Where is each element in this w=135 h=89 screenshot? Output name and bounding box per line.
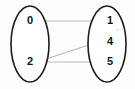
codomain-element-4: 4 xyxy=(107,35,114,47)
speck-mark xyxy=(116,29,118,31)
codomain-element-5: 5 xyxy=(107,55,113,67)
domain-element-0: 0 xyxy=(27,14,33,26)
mapping-diagram-canvas: 0 2 1 4 5 xyxy=(0,0,135,89)
mapping-diagram: 0 2 1 4 5 xyxy=(0,0,135,89)
domain-element-2: 2 xyxy=(27,55,33,67)
codomain-element-1: 1 xyxy=(107,14,113,26)
arrow-0-to-1 xyxy=(38,19,98,24)
